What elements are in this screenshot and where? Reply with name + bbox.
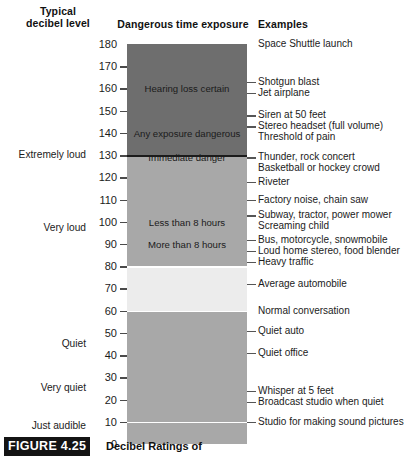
loudness-label: Very loud	[0, 222, 86, 234]
axis-tick-label: 150	[99, 105, 117, 117]
example-tick-mark	[247, 82, 256, 83]
decibel-band-chart: Hearing loss certainAny exposure dangero…	[127, 44, 247, 444]
axis-tick: 110	[88, 194, 130, 206]
axis-tick-label: 80	[105, 260, 117, 272]
loudness-label: Extremely loud	[0, 149, 86, 161]
axis-tick-label: 180	[99, 38, 117, 50]
header-dangerous-time-exposure: Dangerous time exposure	[113, 18, 253, 30]
axis-tick: 160	[88, 82, 130, 94]
example-label: Bus, motorcycle, snowmobile	[258, 234, 388, 246]
axis-tick: 140	[88, 127, 130, 139]
example-label: Broadcast studio when quiet	[258, 396, 384, 408]
band-label: Hearing loss certain	[127, 83, 247, 94]
axis-tick: 120	[88, 171, 130, 183]
loudness-label-column: Extremely loudVery loudQuietVery quietJu…	[0, 0, 86, 462]
axis-tick: 60	[88, 305, 130, 317]
example-label: Siren at 50 feet	[258, 109, 326, 121]
example-tick-mark	[247, 331, 256, 332]
decibel-band	[127, 311, 247, 444]
example-label: Basketball or hockey crowd	[258, 162, 380, 174]
axis-tick: 90	[88, 238, 130, 250]
axis-tick-label: 160	[99, 82, 117, 94]
example-label: Studio for making sound pictures	[258, 416, 404, 428]
example-label: Jet airplane	[258, 87, 310, 99]
example-label: Normal conversation	[258, 305, 350, 317]
band-label: Less than 8 hours	[127, 217, 247, 228]
axis-tick: 80	[88, 260, 130, 272]
example-tick-mark	[247, 215, 256, 216]
axis-tick-label: 90	[105, 238, 117, 250]
axis-tick: 70	[88, 282, 130, 294]
example-label: Whisper at 5 feet	[258, 385, 334, 397]
example-tick-mark	[247, 251, 256, 252]
axis-tick-label: 130	[99, 149, 117, 161]
band-label: More than 8 hours	[127, 239, 247, 250]
example-tick-mark	[247, 353, 256, 354]
band-separator	[127, 422, 247, 424]
axis-tick: 30	[88, 371, 130, 383]
axis-tick: 130	[88, 149, 130, 161]
example-label: Factory noise, chain saw	[258, 194, 368, 206]
example-label: Quiet auto	[258, 325, 304, 337]
example-tick-mark	[247, 126, 256, 127]
examples-column: Space Shuttle launchShotgun blastJet air…	[258, 0, 402, 450]
axis-tick: 40	[88, 349, 130, 361]
axis-tick-label: 120	[99, 171, 117, 183]
band-label: Immediate danger	[127, 152, 247, 163]
loudness-label: Just audible	[0, 420, 86, 432]
example-label: Riveter	[258, 176, 290, 188]
band-label: Any exposure dangerous	[127, 128, 247, 139]
example-label: Threshold of pain	[258, 131, 335, 143]
example-tick-mark	[247, 262, 256, 263]
example-tick-mark	[247, 284, 256, 285]
example-tick-mark	[247, 115, 256, 116]
example-tick-mark	[247, 200, 256, 201]
example-label: Screaming child	[258, 220, 329, 232]
axis-tick: 100	[88, 216, 130, 228]
axis-tick-label: 140	[99, 127, 117, 139]
axis-tick-label: 170	[99, 60, 117, 72]
example-tick-mark	[247, 240, 256, 241]
axis-tick: 150	[88, 105, 130, 117]
axis-tick-label: 20	[105, 394, 117, 406]
axis-tick-label: 30	[105, 371, 117, 383]
axis-tick: 50	[88, 327, 130, 339]
example-label: Space Shuttle launch	[258, 38, 353, 50]
example-tick-mark	[247, 157, 256, 158]
example-label: Stereo headset (full volume)	[258, 120, 383, 132]
decibel-band	[127, 166, 247, 244]
axis-tick: 20	[88, 394, 130, 406]
axis-tick: 10	[88, 416, 130, 428]
example-tick-mark	[247, 402, 256, 403]
axis-tick-label: 40	[105, 349, 117, 361]
example-tick-mark	[247, 391, 256, 392]
example-tick-mark	[247, 93, 256, 94]
example-label: Loud home stereo, food blender	[258, 245, 400, 257]
example-label: Subway, tractor, power mower	[258, 209, 392, 221]
axis-tick-label: 10	[105, 416, 117, 428]
axis-tick-label: 60	[105, 305, 117, 317]
decibel-axis: 1801701601501401301201101009080706050403…	[88, 36, 130, 456]
band-separator	[127, 266, 247, 268]
loudness-label: Quiet	[0, 338, 86, 350]
loudness-label: Very quiet	[0, 382, 86, 394]
example-label: Average automobile	[258, 278, 347, 290]
figure-number-tag: FIGURE 4.25	[4, 437, 90, 456]
axis-tick-label: 110	[99, 194, 117, 206]
axis-tick-label: 50	[105, 327, 117, 339]
example-tick-mark	[247, 422, 256, 423]
band-separator	[127, 155, 247, 157]
figure-caption-text: Decibel Ratings of	[106, 438, 202, 454]
band-separator	[127, 311, 247, 313]
example-label: Thunder, rock concert	[258, 151, 355, 163]
decibel-band	[127, 266, 247, 310]
axis-tick-label: 70	[105, 282, 117, 294]
example-tick-mark	[247, 182, 256, 183]
axis-tick: 170	[88, 60, 130, 72]
example-label: Quiet office	[258, 347, 308, 359]
axis-tick: 180	[88, 38, 130, 50]
example-label: Shotgun blast	[258, 76, 319, 88]
example-label: Heavy traffic	[258, 256, 313, 268]
axis-tick-label: 100	[99, 216, 117, 228]
figure-caption: FIGURE 4.25 Decibel Ratings of	[2, 437, 400, 461]
